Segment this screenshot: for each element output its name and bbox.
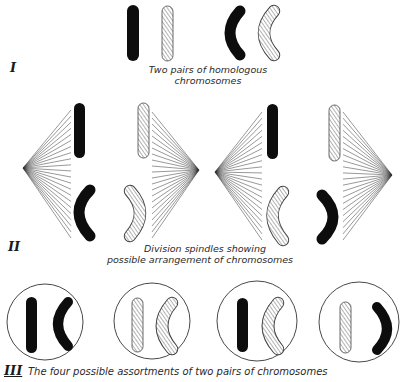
hatched-rod-chromosome (162, 6, 173, 61)
hatched-curved-chromosome (268, 303, 278, 349)
panel-3-label: III (4, 363, 22, 378)
panel-3-caption: The four possible assortments of two pai… (28, 366, 378, 377)
hatched-curved-chromosome (162, 303, 172, 349)
hatched-rod-chromosome (340, 302, 351, 353)
panel-1-chromosomes (127, 5, 274, 61)
panel-1-label: I (10, 60, 16, 75)
black-curved-chromosome (230, 11, 240, 55)
assortment-4 (319, 282, 399, 362)
hatched-rod-chromosome (329, 105, 340, 161)
cell-circle (217, 281, 297, 361)
hatched-curved-chromosome (273, 192, 284, 240)
hatched-curved-chromosome (130, 191, 140, 236)
spindle-1 (23, 103, 199, 238)
black-rod-chromosome (267, 104, 278, 159)
panel-1-caption-line-2: chromosomes (128, 75, 288, 86)
spindle-2 (215, 104, 392, 240)
black-rod-chromosome (237, 298, 248, 352)
chromosome-diagram (0, 0, 408, 382)
black-curved-chromosome (58, 302, 68, 346)
black-rod-chromosome (74, 103, 85, 158)
assortment-3 (217, 281, 297, 361)
hatched-rod-chromosome (138, 103, 149, 158)
assortment-2 (114, 283, 190, 359)
hatched-rod-chromosome (132, 298, 143, 352)
spindle-fibers-left (23, 110, 71, 238)
hatched-curved-chromosome (264, 11, 274, 55)
black-rod-chromosome (127, 5, 139, 61)
spindle-fibers-left (215, 112, 262, 240)
spindle-fibers-right (152, 112, 199, 238)
panel-1-caption-line-1: Two pairs of homologous (128, 64, 288, 75)
black-curved-chromosome (377, 307, 387, 350)
black-curved-chromosome (79, 190, 90, 236)
panel-2-label: II (8, 239, 20, 254)
panel-2-caption-line-2: possible arrangement of chromosomes (80, 254, 320, 265)
panel-2-caption-line-1: Division spindles showing (100, 243, 310, 254)
cell-circle (114, 283, 190, 359)
assortment-1 (7, 284, 83, 360)
black-curved-chromosome (322, 195, 333, 239)
black-rod-chromosome (26, 297, 37, 353)
spindle-fibers-right (343, 112, 392, 240)
